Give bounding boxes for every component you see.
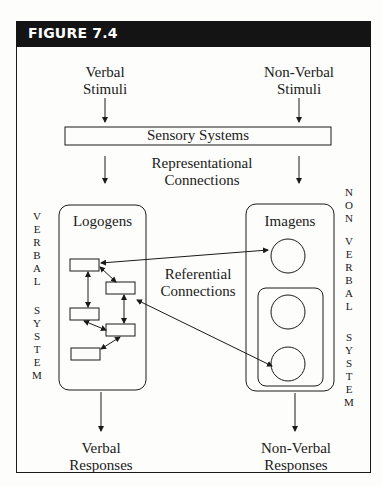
nonverbal-system-side-label: NON VERBAL SYSTEM — [343, 186, 355, 409]
verbal-responses-label: Verbal Responses — [60, 440, 142, 474]
logogen-node-3 — [70, 308, 99, 320]
nonverbal-responses-label: Non-Verbal Responses — [250, 440, 342, 474]
imagens-box — [246, 204, 334, 391]
representational-connections-label: Representational Connections — [140, 155, 264, 189]
sensory-systems-label: Sensory Systems — [65, 127, 331, 144]
imagen-node-1 — [271, 239, 305, 273]
verbal-system-side-label: VERBAL SYSTEM — [31, 210, 43, 382]
imagens-inner-group — [258, 288, 323, 386]
imagens-label: Imagens — [246, 213, 334, 230]
logogens-label: Logogens — [59, 213, 146, 230]
imagen-node-2 — [271, 295, 305, 329]
logogen-node-2 — [106, 282, 135, 294]
referential-connections-label: Referential Connections — [150, 266, 246, 300]
logogen-node-4 — [106, 324, 135, 336]
logogen-node-1 — [70, 259, 99, 271]
logogen-node-5 — [71, 348, 100, 360]
logogens-box — [59, 205, 146, 390]
nonverbal-stimuli-label: Non-Verbal Stimuli — [255, 64, 343, 98]
verbal-stimuli-label: Verbal Stimuli — [70, 64, 140, 98]
imagen-node-3 — [271, 347, 305, 381]
